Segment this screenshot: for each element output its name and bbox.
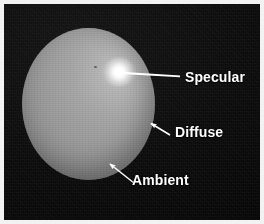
specular-leader-line bbox=[117, 72, 180, 78]
illumination-figure: Specular Diffuse Ambient bbox=[0, 0, 264, 224]
callout-label-ambient: Ambient bbox=[132, 173, 189, 187]
ambient-leader-line bbox=[110, 164, 134, 183]
callout-label-diffuse: Diffuse bbox=[175, 125, 223, 139]
photo-frame: Specular Diffuse Ambient bbox=[4, 4, 260, 220]
callout-label-specular: Specular bbox=[185, 70, 245, 84]
diffuse-leader-line bbox=[151, 124, 170, 136]
